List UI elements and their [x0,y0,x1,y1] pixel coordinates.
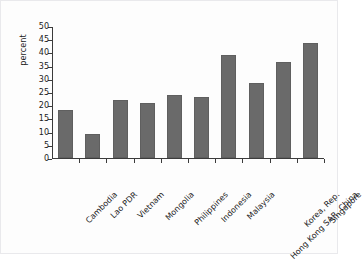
x-tick-mark [79,159,80,163]
bar [194,97,209,158]
y-tick-label: 30 [39,75,49,84]
plot-area: 05101520253035404550 CambodiaLao PDRViet… [52,27,324,159]
bar [140,103,155,158]
bar [113,100,128,158]
x-tick-mark [161,159,162,163]
x-axis-label: Mongolia [164,190,196,222]
y-tick-label: 45 [39,35,49,44]
y-tick-label: 50 [39,22,49,31]
y-tick-label: 5 [44,141,49,150]
bar [249,83,264,158]
y-tick-label: 20 [39,101,49,110]
x-tick-mark [242,159,243,163]
bar [167,95,182,158]
x-tick-mark [188,159,189,163]
x-tick-mark [297,159,298,163]
bar [276,62,291,158]
y-tick-label: 35 [39,62,49,71]
y-tick-label: 40 [39,48,49,57]
y-tick-label: 10 [39,128,49,137]
y-axis-label: percent [19,15,28,85]
x-tick-mark [215,159,216,163]
y-tick-label: 0 [44,154,49,163]
x-tick-mark [324,159,325,163]
bar [303,43,318,158]
bar [58,110,73,158]
y-axis-line [52,27,53,159]
y-tick-label: 15 [39,114,49,123]
x-tick-mark [270,159,271,163]
x-tick-mark [106,159,107,163]
x-axis-label: Vietnam [136,190,166,220]
y-tick-label: 25 [39,88,49,97]
bar [221,55,236,158]
bar [85,134,100,158]
x-tick-mark [134,159,135,163]
